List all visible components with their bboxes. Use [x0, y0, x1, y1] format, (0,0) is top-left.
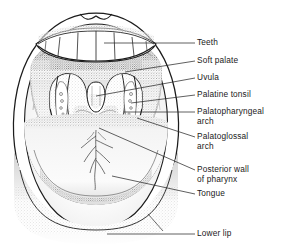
label-lower-lip: Lower lip: [197, 229, 232, 239]
label-palatopharyngeal-arch-line2: arch: [197, 117, 214, 127]
label-soft-palate: Soft palate: [197, 56, 238, 66]
label-palatoglossal-arch-line2: arch: [197, 142, 214, 152]
upper-teeth-group: [36, 25, 156, 62]
anatomy-figure-page: Teeth Soft palate Uvula Palatine tonsil …: [0, 0, 284, 252]
label-uvula: Uvula: [197, 73, 219, 83]
label-teeth: Teeth: [197, 38, 218, 48]
label-posterior-wall-line2: of pharynx: [197, 175, 237, 185]
label-palatine-tonsil: Palatine tonsil: [197, 90, 251, 100]
label-tongue: Tongue: [197, 189, 225, 199]
oral-cavity-illustration: [0, 0, 284, 252]
